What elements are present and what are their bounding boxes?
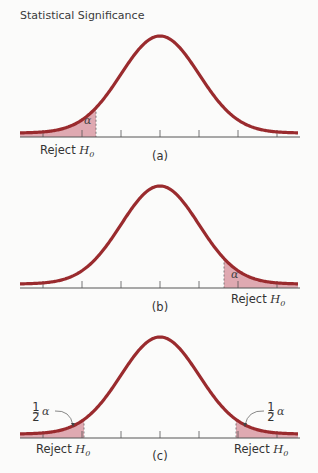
pointer-arrow <box>55 411 73 425</box>
panel-label-c: (c) <box>152 449 167 463</box>
normal-curve <box>20 36 298 133</box>
half-alpha-label-right: 1 2 α <box>243 400 285 427</box>
reject-h0-label-left: Reject H0 <box>36 442 90 458</box>
alpha-label: α <box>84 114 92 127</box>
panel-label-b: (b) <box>152 300 168 314</box>
svg-text:α: α <box>277 405 285 418</box>
chart-panel-a: α Reject H0 (a) <box>20 36 300 163</box>
alpha-label: α <box>231 268 239 281</box>
reject-h0-label: Reject H0 <box>231 292 285 308</box>
svg-text:2: 2 <box>32 410 39 424</box>
half-alpha-label-left: 1 2 α <box>32 400 75 427</box>
svg-text:2: 2 <box>267 410 274 424</box>
svg-text:α: α <box>42 405 50 418</box>
pointer-arrow <box>245 411 264 425</box>
normal-curve <box>20 186 298 284</box>
panel-label-a: (a) <box>152 149 168 163</box>
chart-panel-c: 1 2 α 1 2 α Reject H0 Reject H0 (c) <box>20 337 300 463</box>
reject-h0-label-right: Reject H0 <box>234 442 288 458</box>
chart-panel-b: α Reject H0 (b) <box>20 186 300 314</box>
reject-h0-label: Reject H0 <box>40 143 94 159</box>
normal-curve <box>20 337 298 434</box>
significance-figure: α Reject H0 (a) α Reject H0 (b) 1 2 α 1 <box>0 0 318 473</box>
